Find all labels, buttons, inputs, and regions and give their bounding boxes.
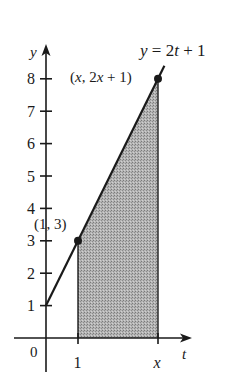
y-tick-label: 8 bbox=[27, 70, 35, 87]
area-under-line-diagram: 12345678 1x (1, 3)(x, 2x + 1) y t 0 y = … bbox=[0, 0, 236, 388]
t-tick-label: 1 bbox=[74, 354, 82, 371]
y-axis-label: y bbox=[28, 44, 37, 60]
y-tick-label: 1 bbox=[27, 297, 35, 314]
start-point-dot bbox=[74, 237, 82, 245]
end-point-dot bbox=[154, 75, 162, 83]
t-tick-label: x bbox=[153, 354, 161, 371]
shaded-area-region bbox=[78, 79, 158, 338]
y-axis-ticks: 12345678 bbox=[27, 70, 52, 314]
y-tick-label: 7 bbox=[27, 103, 35, 120]
start-point-label: (1, 3) bbox=[34, 216, 67, 233]
y-tick-label: 3 bbox=[27, 232, 35, 249]
y-tick-label: 2 bbox=[27, 265, 35, 282]
end-point-label: (x, 2x + 1) bbox=[70, 69, 132, 86]
t-axis-label: t bbox=[182, 346, 187, 362]
y-tick-label: 4 bbox=[27, 200, 35, 217]
origin-label: 0 bbox=[30, 344, 38, 360]
y-tick-label: 6 bbox=[27, 135, 35, 152]
function-label: y = 2t + 1 bbox=[138, 41, 205, 60]
y-tick-label: 5 bbox=[27, 168, 35, 185]
